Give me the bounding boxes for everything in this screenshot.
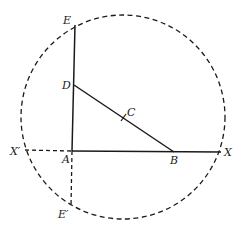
label-B: B — [169, 154, 178, 167]
geometry-diagram: E D C A B X X′ E′ — [0, 0, 241, 234]
label-A: A — [61, 153, 70, 166]
label-X-prime: X′ — [9, 145, 21, 158]
label-C: C — [127, 106, 136, 119]
line-AE — [72, 25, 75, 151]
label-X: X — [223, 146, 233, 159]
dashed-line-AEprime — [71, 151, 72, 207]
line-AX — [72, 151, 221, 152]
dashed-line-XprimeA — [25, 150, 72, 151]
label-D: D — [61, 79, 71, 92]
label-E: E — [62, 14, 71, 27]
label-E-prime: E′ — [57, 208, 69, 221]
line-DB — [74, 85, 174, 152]
